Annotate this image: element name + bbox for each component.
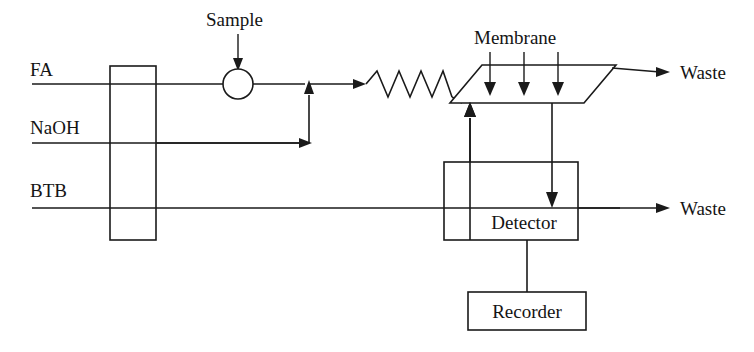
recorder-label: Recorder [492,301,562,322]
membrane-label: Membrane [474,27,556,48]
membrane-body[interactable] [450,65,616,103]
recorder-unit[interactable]: Recorder [468,292,586,330]
waste-bottom-arrow-icon [656,203,670,213]
naoh-merge-arrow-icon [299,138,312,148]
fa-label: FA [30,59,53,80]
naoh-riser-arrow-icon [304,80,314,94]
btb-label: BTB [30,180,67,201]
waste-top-arrow-icon [656,67,670,77]
waste-bottom-label: Waste [680,198,726,219]
membrane-to-detector-connector [546,103,558,208]
waste-top-label: Waste [680,62,726,83]
carrier-flow-arrow-icon [353,79,366,89]
naoh-label: NaOH [30,117,80,138]
waste-outlet-top: Waste [612,62,726,83]
sample-injection-group[interactable]: Sample [206,9,263,99]
flow-diagram-svg: FA NaOH BTB Sample [0,0,754,352]
naoh-confluence-connector [156,79,366,148]
reagent-line-fa: FA [30,59,305,84]
detector-label: Detector [491,212,557,233]
sample-label: Sample [206,9,263,30]
btb-riser-arrow-icon-overlay [464,102,476,117]
mixing-coil [366,71,452,97]
gas-diffusion-membrane-unit[interactable]: Membrane [450,27,616,103]
sample-injection-port[interactable] [223,69,253,99]
waste-top-line [612,68,660,72]
flow-diagram-canvas: FA NaOH BTB Sample [0,0,754,352]
waste-outlet-bottom: Waste [578,198,726,219]
reagent-line-naoh: NaOH [30,117,300,143]
peristaltic-pump[interactable] [110,66,156,240]
detector-unit[interactable]: Detector [444,102,578,240]
